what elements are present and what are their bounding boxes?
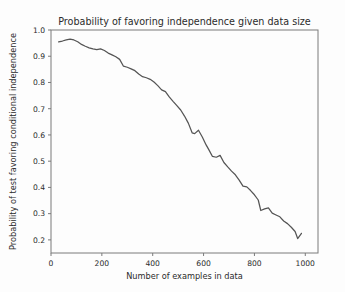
y-tick-label: 0.9 (33, 52, 45, 61)
chart-background (0, 0, 345, 292)
y-tick-label: 0.6 (33, 131, 45, 140)
y-tick-label: 0.4 (33, 183, 45, 192)
y-tick-label: 1.0 (33, 26, 45, 35)
x-axis-label: Number of examples in data (126, 271, 243, 281)
probability-line-chart: Probability of favoring independence giv… (0, 0, 345, 292)
y-tick-label: 0.5 (33, 157, 45, 166)
y-tick-label: 0.2 (33, 236, 45, 245)
x-tick-label: 0 (49, 259, 54, 268)
y-tick-label: 0.8 (33, 78, 45, 87)
x-tick-label: 800 (247, 259, 262, 268)
y-axis-label: Probability of test favoring conditional… (8, 33, 18, 250)
chart-title: Probability of favoring independence giv… (58, 16, 311, 27)
y-tick-label: 0.3 (33, 209, 45, 218)
chart-figure: Probability of favoring independence giv… (0, 0, 345, 292)
x-tick-label: 1000 (296, 259, 315, 268)
y-tick-label: 0.7 (33, 105, 45, 114)
x-tick-label: 600 (196, 259, 211, 268)
x-tick-label: 400 (145, 259, 160, 268)
x-tick-label: 200 (95, 259, 110, 268)
